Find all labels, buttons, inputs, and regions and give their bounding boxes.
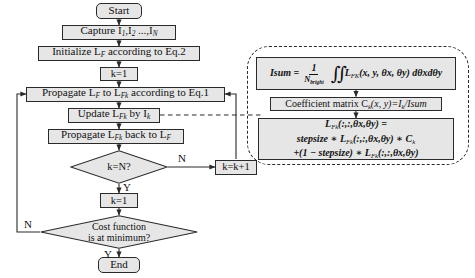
decision-cost-label: Cost function is at minimum? [88,221,150,243]
node-k-reset: k=1 [100,193,138,208]
edge-label-cost-no: N [24,219,32,230]
equation-isum: Isum =1Nbright∬LFK(x, y, θx, θy) dθxdθy [256,57,456,90]
node-capture: Capture I1,I2 ...,IN [62,25,176,41]
node-propagate-forward-label: Propagate LF to LFk according to Eq.1 [42,87,209,101]
decision-k-label: k=N? [107,161,130,173]
node-start: Start [96,3,142,19]
equation-coefficient-content: Coefficient matrix Ck(x, y)=Ik/Isum [285,98,426,110]
node-update-label: Update LFk by Ik [78,108,150,122]
flowchart-diagram: Start Capture I1,I2 ...,IN Initialize LF… [0,0,475,278]
equation-update-line1: LFk(:,:,θx,θy) = [325,117,387,132]
edge-label-k-no: N [178,153,186,164]
decision-cost-line1: Cost function [92,221,146,232]
node-increment-k-label: k=k+1 [222,161,250,172]
equation-isum-content: Isum =1Nbright∬LFK(x, y, θx, θy) dθxdθy [270,63,442,85]
node-start-label: Start [109,5,130,17]
decision-cost-line2: is at minimum? [88,232,150,243]
equation-update-rule: LFk(:,:,θx,θy) = stepsize ∗ LFk(:,:,θx,θ… [258,118,454,160]
double-integral-icon: ∬ [331,68,343,79]
node-propagate-back-label: Propagate LFk back to LF [61,129,171,143]
node-propagate-back: Propagate LFk back to LF [48,129,184,144]
equation-coefficient-matrix: Coefficient matrix Ck(x, y)=Ik/Isum [270,97,442,112]
decision-k-equals-n: k=N? [70,150,168,184]
node-increment-k: k=k+1 [215,160,257,175]
node-k-init: k=1 [100,67,138,81]
node-initialize: Initialize LF according to Eq.2 [38,46,200,62]
node-capture-label: Capture I1,I2 ...,IN [80,25,157,39]
node-k-init-label: k=1 [111,68,127,79]
decision-cost-function: Cost function is at minimum? [40,215,198,249]
edge-label-cost-yes: Y [104,249,112,260]
equation-update-line2: stepsize ∗ LFk(:,:,θx,θy) ∗ Ck [297,132,415,147]
node-k-reset-label: k=1 [111,195,127,206]
equation-update-line3: +(1 − stepsize) ∗ LFk(:,:,θx,θy) [293,146,418,161]
node-update: Update LFk by Ik [68,108,160,123]
edge-label-k-yes: Y [123,182,131,193]
node-initialize-label: Initialize LF according to Eq.2 [52,46,186,60]
node-end-label: End [110,259,128,271]
node-propagate-forward: Propagate LF to LFk according to Eq.1 [26,87,225,103]
